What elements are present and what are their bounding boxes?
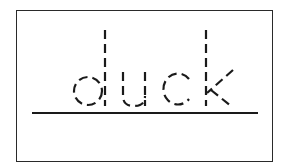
letter-k-leg bbox=[211, 90, 231, 106]
letter-d-bowl bbox=[74, 77, 102, 105]
letter-u-curve bbox=[123, 72, 145, 106]
letter-c-arc bbox=[163, 74, 189, 105]
tracing-word bbox=[0, 0, 290, 167]
letter-u bbox=[123, 72, 145, 106]
letter-k-arm bbox=[207, 70, 233, 93]
letter-d bbox=[74, 30, 105, 106]
letter-k bbox=[206, 30, 233, 106]
letter-c bbox=[163, 74, 189, 105]
